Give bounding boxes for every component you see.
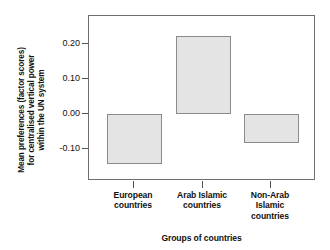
y-tick-label-3: -0.10	[46, 144, 80, 153]
y-tick-label-2: 0.00	[46, 109, 80, 118]
x-tick-mark-1	[202, 181, 203, 188]
y-tick-label-1: 0.10	[46, 74, 80, 83]
bar-european-countries	[107, 114, 162, 164]
bar-non-arab-islamic-countries	[244, 114, 299, 143]
x-tick-label-non-arab-islamic-countries-line-2: Islamic	[227, 200, 313, 210]
x-tick-mark-0	[133, 181, 134, 188]
x-axis-tick-labels: European countries Arab Islamic countrie…	[0, 190, 330, 234]
x-tick-mark-2	[270, 181, 271, 188]
plot-area	[88, 15, 315, 180]
x-tick-label-non-arab-islamic-countries-line-3: countries	[227, 211, 313, 221]
x-axis-title: Groups of countries	[88, 233, 315, 243]
bar-arab-islamic-countries	[176, 36, 231, 114]
x-tick-label-non-arab-islamic-countries: Non-Arab Islamic countries	[227, 190, 313, 221]
y-axis-title-line-1: Mean preferences (factor scores)	[17, 47, 27, 173]
x-tick-label-non-arab-islamic-countries-line-1: Non-Arab	[227, 190, 313, 200]
bar-chart-figure: Mean preferences (factor scores) for cen…	[0, 0, 330, 250]
y-axis-title-line-2: for centralised vertical power	[27, 55, 37, 166]
y-tick-label-0: 0.20	[46, 39, 80, 48]
